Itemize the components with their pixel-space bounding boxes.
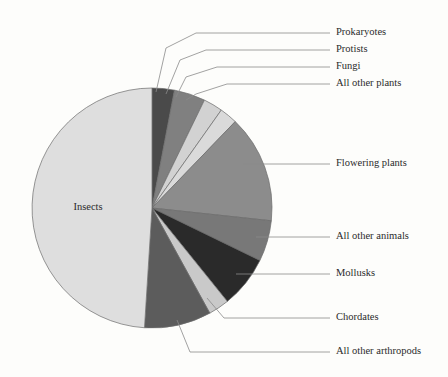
pie-label-chordates: Chordates <box>336 311 379 322</box>
pie-slice-group <box>32 88 272 328</box>
pie-chart-svg: Prokaryotes Protists Fungi All other pla… <box>0 0 448 377</box>
pie-label-mollusks: Mollusks <box>336 267 375 278</box>
pie-label-all-other-plants: All other plants <box>336 77 401 88</box>
pie-label-protists: Protists <box>336 43 368 54</box>
pie-label-all-other-animals: All other animals <box>336 230 409 241</box>
pie-chart-figure: Prokaryotes Protists Fungi All other pla… <box>0 0 448 377</box>
pie-label-flowering-plants: Flowering plants <box>336 157 407 168</box>
pie-label-fungi: Fungi <box>336 60 361 71</box>
pie-label-all-other-arthropods: All other arthropods <box>336 345 421 356</box>
pie-label-prokaryotes: Prokaryotes <box>336 26 386 37</box>
pie-label-insects: Insects <box>73 201 102 212</box>
